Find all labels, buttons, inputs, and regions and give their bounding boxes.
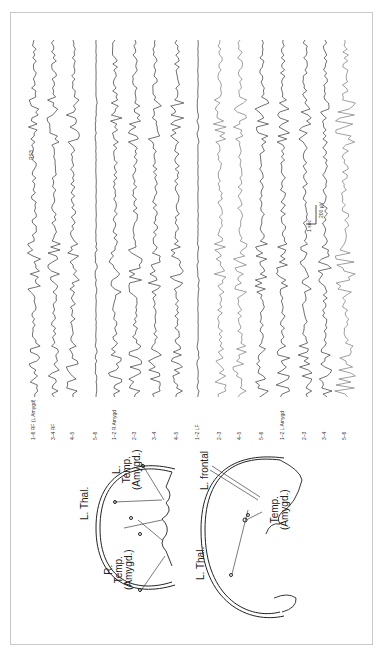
label-l-thal-sagittal: L. Thal.	[196, 547, 206, 580]
label-l-temp-axial: L. Temp. (Amygd.)	[112, 449, 142, 490]
sagittal-head-diagram	[201, 457, 302, 618]
label-r-temp-axial: R. Temp. (Amygd.)	[104, 549, 134, 590]
label-l-frontal: L. frontal	[200, 451, 210, 490]
electrode-diagrams	[0, 0, 379, 652]
label-temp-sagittal: Temp. (Amygd.)	[270, 489, 290, 530]
label-l-thal-axial: L. Thal.	[80, 487, 90, 520]
